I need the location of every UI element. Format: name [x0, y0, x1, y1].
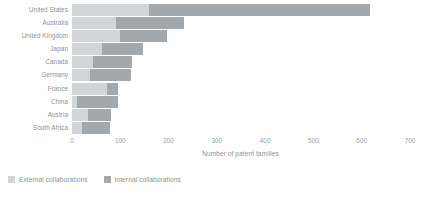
stacked-bar	[72, 109, 111, 121]
bar-segment-internal	[82, 122, 110, 134]
x-axis-tick-label: 400	[260, 136, 271, 146]
bar-row: Japan	[0, 43, 423, 55]
bar-row: China	[0, 96, 423, 108]
category-label: Australia	[0, 17, 68, 29]
bar-segment-internal	[120, 30, 166, 42]
category-label: Austria	[0, 109, 68, 121]
bar-row: South Africa	[0, 122, 423, 134]
bar-row: United Kingdom	[0, 30, 423, 42]
x-axis-tick-label: 600	[356, 136, 367, 146]
stacked-bar	[72, 96, 118, 108]
stacked-bar	[72, 83, 118, 95]
category-label: Canada	[0, 56, 68, 68]
stacked-bar	[72, 56, 132, 68]
stacked-bar	[72, 43, 143, 55]
legend-swatch-internal	[104, 176, 111, 183]
legend-label: External collaborations	[19, 176, 88, 183]
x-axis-tick-label: 200	[163, 136, 174, 146]
stacked-bar	[72, 69, 131, 81]
bar-row: Australia	[0, 17, 423, 29]
stacked-bar-chart: United StatesAustraliaUnited KingdomJapa…	[0, 0, 423, 197]
category-label: South Africa	[0, 122, 68, 134]
legend-item[interactable]: Internal collaborations	[104, 176, 181, 183]
bar-segment-internal	[88, 109, 111, 121]
bar-segment-external	[72, 122, 82, 134]
bar-row: Austria	[0, 109, 423, 121]
legend-item[interactable]: External collaborations	[8, 176, 88, 183]
plot-area: United StatesAustraliaUnited KingdomJapa…	[0, 4, 423, 132]
x-axis-title-text: Number of patent families	[202, 150, 279, 157]
x-axis-tick-label: 500	[308, 136, 319, 146]
bar-segment-internal	[77, 96, 118, 108]
bar-segment-external	[72, 17, 116, 29]
bar-row: United States	[0, 4, 423, 16]
bar-segment-external	[72, 43, 102, 55]
bar-segment-internal	[116, 17, 184, 29]
x-axis-tick-label: 300	[212, 136, 223, 146]
bar-segment-external	[72, 83, 107, 95]
bar-rows: United StatesAustraliaUnited KingdomJapa…	[0, 4, 423, 135]
x-axis-tick-label: 700	[405, 136, 416, 146]
stacked-bar	[72, 4, 370, 16]
x-axis-title: Number of patent families	[0, 150, 423, 157]
stacked-bar	[72, 122, 110, 134]
bar-segment-internal	[93, 56, 132, 68]
bar-segment-internal	[90, 69, 131, 81]
bar-row: Canada	[0, 56, 423, 68]
x-axis-tick-label: 100	[115, 136, 126, 146]
x-axis-tick-label: 0	[70, 136, 74, 146]
category-label: Japan	[0, 43, 68, 55]
category-label: United Kingdom	[0, 30, 68, 42]
chart-legend: External collaborationsInternal collabor…	[8, 176, 181, 183]
stacked-bar	[72, 30, 167, 42]
bar-segment-external	[72, 30, 120, 42]
category-label: United States	[0, 4, 68, 16]
bar-segment-internal	[149, 4, 370, 16]
bar-segment-external	[72, 4, 149, 16]
stacked-bar	[72, 17, 184, 29]
legend-label: Internal collaborations	[115, 176, 181, 183]
legend-swatch-external	[8, 176, 15, 183]
bar-segment-external	[72, 69, 90, 81]
category-label: Germany	[0, 69, 68, 81]
bar-segment-external	[72, 109, 88, 121]
bar-segment-internal	[107, 83, 118, 95]
bar-segment-external	[72, 56, 93, 68]
bar-row: France	[0, 83, 423, 95]
bar-row: Germany	[0, 69, 423, 81]
bar-segment-internal	[102, 43, 143, 55]
x-axis: 0100200300400500600700	[0, 136, 423, 148]
category-label: France	[0, 83, 68, 95]
category-label: China	[0, 96, 68, 108]
